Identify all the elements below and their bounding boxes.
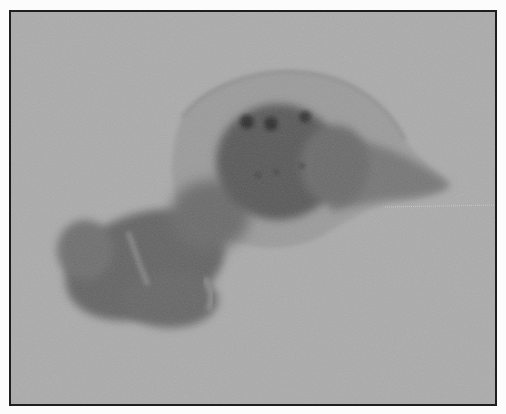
photo-frame	[9, 10, 497, 406]
specimen-photo	[9, 10, 497, 406]
film-grain	[9, 10, 497, 406]
page: Grayscale photograph of a gross tissue s…	[0, 0, 506, 414]
image-alt-text: Grayscale photograph of a gross tissue s…	[0, 0, 1, 1]
